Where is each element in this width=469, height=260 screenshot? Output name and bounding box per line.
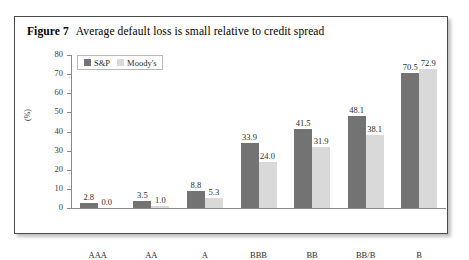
y-tick-label: 40 (41, 126, 63, 136)
bar-value-label: 41.5 (287, 118, 319, 128)
bar-moodys (312, 147, 330, 208)
x-axis-label: A (178, 250, 232, 260)
y-tick-label: 80 (41, 49, 63, 59)
y-tick-label: 70 (41, 68, 63, 78)
bar-value-label: 72.9 (412, 58, 444, 68)
bar-moodys (151, 206, 169, 208)
bar-group: 70.572.9 (401, 55, 437, 208)
figure-frame: Figure 7Average default loss is small re… (14, 16, 448, 234)
bar-moodys (366, 135, 384, 208)
y-tick-label: 50 (41, 106, 63, 116)
bar-moodys (419, 69, 437, 208)
x-axis-label: AA (125, 250, 179, 260)
x-axis-label: BB/B (339, 250, 393, 260)
bar-group: 8.85.3 (187, 55, 223, 208)
bar-value-label: 1.0 (144, 195, 176, 205)
bar-group: 48.138.1 (348, 55, 384, 208)
y-tick-mark (67, 208, 72, 209)
bar-group: 41.531.9 (294, 55, 330, 208)
bar-value-label: 38.1 (359, 124, 391, 134)
bar-group: 3.51.0 (133, 55, 169, 208)
chart-plot-area: (%) 01020304050607080 S&P Moody's 2.80.0… (15, 17, 449, 235)
bar-value-label: 31.9 (305, 136, 337, 146)
y-axis-title: (%) (23, 109, 32, 121)
y-tick-label: 10 (41, 183, 63, 193)
bar-value-label: 0.0 (91, 197, 123, 207)
x-axis-label: BB (285, 250, 339, 260)
bar-groups: 2.80.0AAA3.51.0AA8.85.3A33.924.0BBB41.53… (71, 55, 446, 208)
y-tick-label: 20 (41, 164, 63, 174)
x-axis-label: B (392, 250, 446, 260)
y-tick-label: 30 (41, 145, 63, 155)
bar-group: 2.80.0 (80, 55, 116, 208)
y-tick-label: 0 (41, 202, 63, 212)
bar-moodys (205, 198, 223, 208)
x-axis-line (71, 208, 446, 209)
x-axis-label: AAA (71, 250, 125, 260)
bar-moodys (259, 162, 277, 208)
bar-value-label: 24.0 (252, 151, 284, 161)
bar-value-label: 5.3 (198, 187, 230, 197)
y-tick-label: 60 (41, 87, 63, 97)
x-axis-label: BBB (232, 250, 286, 260)
bar-value-label: 48.1 (341, 105, 373, 115)
bar-sp (401, 73, 419, 208)
bar-value-label: 33.9 (234, 132, 266, 142)
bar-group: 33.924.0 (241, 55, 277, 208)
